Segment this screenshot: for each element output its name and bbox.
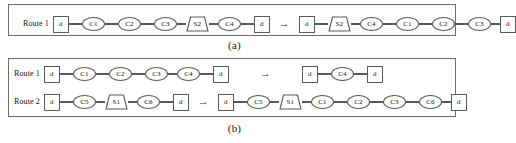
- link: [234, 101, 247, 102]
- customer-node: C1: [73, 67, 96, 81]
- customer-node: C2: [109, 67, 132, 81]
- depot-node: d: [53, 16, 69, 33]
- panel-b-caption: (b): [0, 122, 469, 134]
- link: [318, 73, 331, 74]
- link: [241, 23, 254, 24]
- station-node-label: S2: [336, 21, 343, 28]
- route-label: Route 1: [23, 20, 49, 28]
- link: [141, 23, 154, 24]
- customer-node: C4: [177, 67, 200, 81]
- link: [96, 101, 105, 102]
- link: [60, 101, 73, 102]
- link: [128, 101, 137, 102]
- station-node: S2: [328, 16, 351, 32]
- station-node-label: S2: [194, 21, 201, 28]
- route-label: Route 2: [14, 98, 40, 106]
- link: [370, 101, 383, 102]
- link: [209, 23, 218, 24]
- customer-node: C4: [360, 17, 383, 31]
- link: [491, 23, 500, 24]
- link: [200, 73, 213, 74]
- link: [132, 73, 145, 74]
- depot-node: d: [218, 94, 234, 111]
- customer-node: C3: [383, 95, 406, 109]
- station-node-label: S1: [287, 99, 294, 106]
- link: [160, 101, 173, 102]
- link: [351, 23, 360, 24]
- transform-arrow-icon: →: [251, 68, 280, 79]
- link: [270, 101, 279, 102]
- link: [177, 23, 186, 24]
- station-node: S1: [105, 94, 128, 110]
- customer-node: C3: [145, 67, 168, 81]
- link: [406, 101, 419, 102]
- panel-a-caption: (a): [0, 39, 469, 51]
- link: [302, 101, 311, 102]
- link: [315, 23, 328, 24]
- route-label: Route 1: [14, 70, 40, 78]
- customer-node: C4: [218, 17, 241, 31]
- customer-node: C5: [247, 95, 270, 109]
- link: [354, 73, 367, 74]
- link: [419, 23, 432, 24]
- customer-node: C1: [396, 17, 419, 31]
- station-node: S2: [186, 16, 209, 32]
- transform-arrow-icon: →: [270, 18, 299, 29]
- depot-node: d: [367, 66, 383, 83]
- customer-node: C6: [419, 95, 442, 109]
- customer-node: C3: [468, 17, 491, 31]
- depot-node: d: [173, 94, 189, 111]
- panel-a-route-1-row: Route 1 d C1 C2 C3 S2 C4 d → d: [23, 12, 516, 36]
- customer-node: C3: [154, 17, 177, 31]
- transform-arrow-icon: →: [189, 96, 218, 107]
- customer-node: C4: [331, 67, 354, 81]
- customer-node: C6: [137, 95, 160, 109]
- customer-node: C1: [311, 95, 334, 109]
- depot-node: d: [44, 94, 60, 111]
- link: [455, 23, 468, 24]
- link: [442, 101, 451, 102]
- link: [60, 73, 73, 74]
- station-node: S1: [279, 94, 302, 110]
- customer-node: C2: [347, 95, 370, 109]
- link: [383, 23, 396, 24]
- station-node-label: S1: [113, 99, 120, 106]
- panel-b-route-1-row: Route 1 d C1 C2 C3 C4 d → d C4 d: [14, 62, 383, 86]
- customer-node: C2: [432, 17, 455, 31]
- depot-node: d: [299, 16, 315, 33]
- panel-a: Route 1 d C1 C2 C3 S2 C4 d → d: [8, 4, 456, 36]
- depot-node: d: [451, 94, 467, 111]
- customer-node: C2: [118, 17, 141, 31]
- link: [105, 23, 118, 24]
- link: [334, 101, 347, 102]
- link: [96, 73, 109, 74]
- depot-node: d: [254, 16, 270, 33]
- customer-node: C1: [82, 17, 105, 31]
- depot-node: d: [302, 66, 318, 83]
- link: [168, 73, 177, 74]
- panel-b-route-2-row: Route 2 d C5 S1 C6 d → d C5 S1 C1 C2: [14, 90, 467, 114]
- depot-node: d: [44, 66, 60, 83]
- customer-node: C5: [73, 95, 96, 109]
- link: [69, 23, 82, 24]
- depot-node: d: [213, 66, 229, 83]
- depot-node: d: [500, 16, 516, 33]
